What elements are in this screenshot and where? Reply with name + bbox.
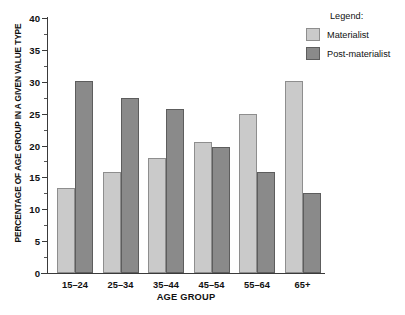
x-tick-label: 45–54: [199, 280, 225, 290]
bar-post-materialist: [75, 81, 93, 273]
legend-label: Materialist: [327, 30, 369, 40]
plot-area: 0510152025303540 15–2425–3435–4445–5455–…: [47, 18, 325, 273]
y-tick-mark: [42, 241, 47, 242]
y-tick-label: 40: [29, 13, 40, 24]
bar-group: [239, 18, 275, 273]
y-tick-mark: [42, 273, 47, 274]
y-tick-mark: [42, 82, 47, 83]
bar-post-materialist: [257, 172, 275, 273]
y-tick-mark: [42, 50, 47, 51]
legend-label: Post-materialist: [327, 49, 390, 59]
x-axis-title: AGE GROUP: [47, 292, 325, 302]
y-minor-tick-mark: [44, 66, 47, 67]
y-minor-tick-mark: [44, 130, 47, 131]
bar-group: [148, 18, 184, 273]
legend-item: Post-materialist: [330, 47, 405, 60]
y-axis-title: PERCENTAGE OF AGE GROUP IN A GIVEN VALUE…: [13, 0, 23, 268]
x-tick-label: 35–44: [153, 280, 179, 290]
bar-chart-figure: PERCENTAGE OF AGE GROUP IN A GIVEN VALUE…: [0, 0, 405, 315]
y-tick-mark: [42, 146, 47, 147]
bar-materialist: [239, 114, 257, 273]
bar-materialist: [148, 158, 166, 273]
y-tick-label: 10: [29, 204, 40, 215]
bar-post-materialist: [121, 98, 139, 273]
y-tick-label: 0: [35, 268, 40, 279]
x-tick-label: 65+: [295, 280, 311, 290]
legend-items: MaterialistPost-materialist: [330, 28, 405, 60]
y-tick-mark: [42, 114, 47, 115]
bar-materialist: [57, 188, 75, 273]
bar-group: [194, 18, 230, 273]
post-materialist-swatch: [306, 47, 320, 60]
x-tick-label: 25–34: [108, 280, 134, 290]
y-minor-tick-mark: [44, 34, 47, 35]
bar-group: [103, 18, 139, 273]
materialist-swatch: [306, 28, 320, 41]
y-tick-label: 5: [35, 236, 40, 247]
bar-post-materialist: [166, 109, 184, 273]
y-minor-tick-mark: [44, 98, 47, 99]
y-tick-label: 20: [29, 140, 40, 151]
y-tick-mark: [42, 18, 47, 19]
bar-materialist: [194, 142, 212, 273]
bar-post-materialist: [303, 193, 321, 273]
legend-item: Materialist: [330, 28, 405, 41]
y-axis-line: [47, 17, 48, 274]
y-minor-tick-mark: [44, 225, 47, 226]
legend-title: Legend:: [330, 11, 405, 21]
y-tick-label: 35: [29, 44, 40, 55]
bar-group: [57, 18, 93, 273]
y-minor-tick-mark: [44, 193, 47, 194]
y-minor-tick-mark: [44, 161, 47, 162]
y-tick-mark: [42, 209, 47, 210]
y-tick-label: 30: [29, 76, 40, 87]
y-tick-label: 15: [29, 172, 40, 183]
x-tick-label: 15–24: [62, 280, 88, 290]
y-tick-mark: [42, 177, 47, 178]
x-tick-label: 55–64: [244, 280, 270, 290]
bar-materialist: [285, 81, 303, 273]
y-tick-label: 25: [29, 108, 40, 119]
bar-materialist: [103, 172, 121, 273]
legend: Legend: MaterialistPost-materialist: [330, 11, 405, 66]
x-axis-line: [41, 273, 325, 274]
y-minor-tick-mark: [44, 257, 47, 258]
bar-post-materialist: [212, 147, 230, 273]
